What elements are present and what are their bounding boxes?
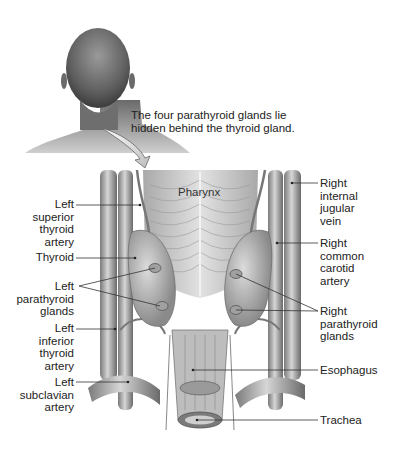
caption-line-2: hidden behind the thyroid gland. [131,122,295,135]
label-line: parathyroid [320,318,378,331]
label-line: artery [32,236,74,249]
label-left-superior-thyroid-artery: Left superior thyroid artery [32,198,74,248]
label-right-internal-jugular-vein: Right internal jugular vein [320,177,358,227]
label-right-common-carotid-artery: Right common carotid artery [320,237,364,287]
label-line: Left [32,198,74,211]
label-esophagus: Esophagus [320,364,378,377]
label-line: artery [320,275,364,288]
label-line: Right [320,305,378,318]
label-line: Thyroid [36,251,74,264]
label-line: jugular [320,202,358,215]
label-left-inferior-thyroid-artery: Left inferior thyroid artery [39,322,74,372]
label-line: Right [320,177,358,190]
label-pharynx: Pharynx [178,186,220,198]
caption-line-1: The four parathyroid glands lie [131,109,295,122]
label-line: carotid [320,262,364,275]
label-line: glands [16,305,74,318]
label-line: artery [39,360,74,373]
label-line: Esophagus [320,364,378,377]
label-line: artery [20,401,74,414]
left-inferior-parathyroid [156,302,168,311]
label-line: parathyroid [16,293,74,306]
label-line: Trachea [320,414,362,427]
label-line: Left [20,376,74,389]
label-line: glands [320,330,378,343]
label-left-parathyroid-glands: Left parathyroid glands [16,280,74,318]
label-left-subclavian-artery: Left subclavian artery [20,376,74,414]
label-line: vein [320,215,358,228]
label-trachea: Trachea [320,414,362,427]
label-line: Left [16,280,74,293]
label-line: subclavian [20,389,74,402]
label-line: internal [320,190,358,203]
label-line: Right [320,237,364,250]
label-line: thyroid [32,223,74,236]
label-line: superior [32,211,74,224]
label-thyroid: Thyroid [36,251,74,264]
esophagus-trachea [166,330,234,430]
label-right-parathyroid-glands: Right parathyroid glands [320,305,378,343]
figure-caption: The four parathyroid glands lie hidden b… [131,109,295,135]
label-line: common [320,250,364,263]
label-line: Left [39,322,74,335]
label-line: inferior [39,335,74,348]
label-line: thyroid [39,347,74,360]
